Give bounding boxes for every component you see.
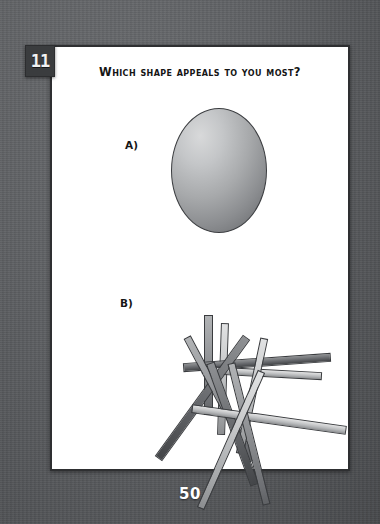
option-shape-b[interactable] bbox=[52, 263, 344, 463]
quiz-screen: Which shape appeals to you most? A) B) 1… bbox=[0, 0, 380, 524]
oval-shape-icon bbox=[171, 108, 267, 233]
page-title: Which shape appeals to you most? bbox=[52, 65, 348, 79]
stick-9 bbox=[191, 404, 347, 435]
option-label-a[interactable]: A) bbox=[125, 139, 138, 151]
option-shape-a[interactable] bbox=[171, 108, 265, 231]
question-number-text: 11 bbox=[31, 53, 49, 70]
page-number: 50 bbox=[0, 485, 380, 503]
quiz-page: Which shape appeals to you most? A) B) bbox=[50, 45, 350, 471]
question-number-badge: 11 bbox=[25, 45, 55, 77]
